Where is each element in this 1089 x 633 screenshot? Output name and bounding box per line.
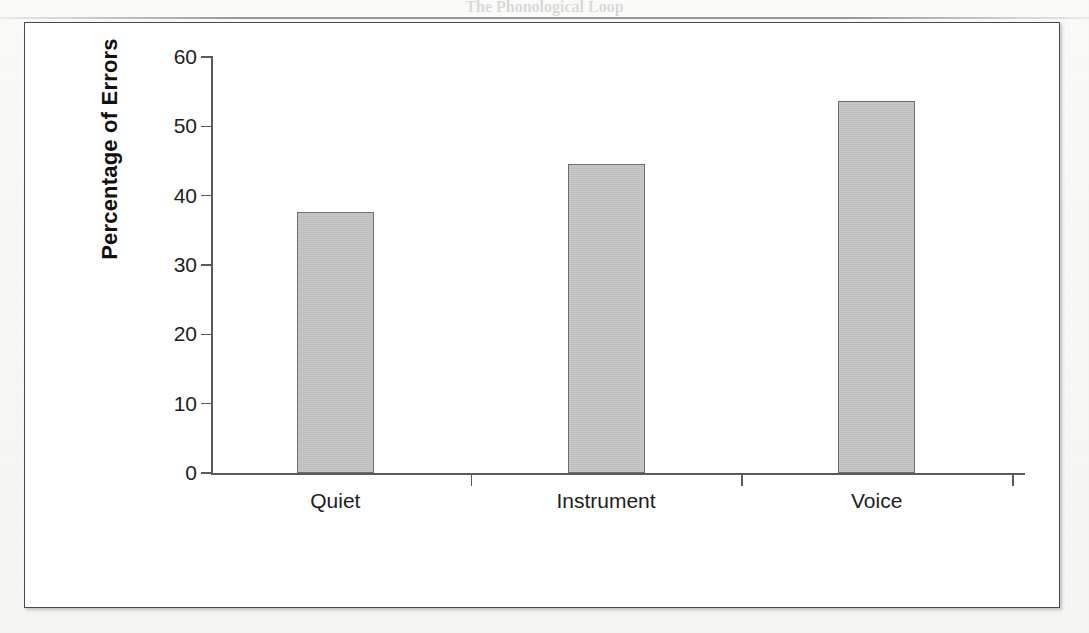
x-axis-label-quiet: Quiet <box>310 489 360 513</box>
y-axis-tick-label: 20 <box>137 322 197 346</box>
chart-plot-area: 0102030405060 QuietInstrumentVoice Perce… <box>25 23 1059 607</box>
x-axis-label-voice: Voice <box>851 489 902 513</box>
figure-frame: 0102030405060 QuietInstrumentVoice Perce… <box>24 22 1060 608</box>
bleed-through-heading: The Phonological Loop <box>0 0 1089 16</box>
x-axis-tick <box>741 475 743 486</box>
bar-voice <box>838 101 915 473</box>
y-axis-title: Percentage of Errors <box>97 23 123 289</box>
y-axis-tick <box>201 56 212 58</box>
y-axis-tick <box>201 403 212 405</box>
scanned-book-page: The Phonological Loop Prephonological lo… <box>0 0 1089 633</box>
y-axis-tick-label: 40 <box>137 184 197 208</box>
x-axis-tick <box>1012 475 1014 486</box>
y-axis-tick-label: 10 <box>137 392 197 416</box>
y-axis-tick <box>201 195 212 197</box>
y-axis-tick-label: 0 <box>137 461 197 485</box>
x-axis-line <box>211 473 1025 475</box>
y-axis-tick-label: 60 <box>137 45 197 69</box>
y-axis-tick-label: 50 <box>137 114 197 138</box>
y-axis-tick <box>201 334 212 336</box>
y-axis-tick <box>201 472 212 474</box>
y-axis-tick-label: 30 <box>137 253 197 277</box>
bar-instrument <box>568 164 645 473</box>
x-axis-tick <box>471 475 473 486</box>
bar-quiet <box>297 212 374 473</box>
page-rule-line <box>0 17 1089 19</box>
y-axis-tick <box>201 126 212 128</box>
x-axis-label-instrument: Instrument <box>556 489 655 513</box>
y-axis-tick <box>201 264 212 266</box>
